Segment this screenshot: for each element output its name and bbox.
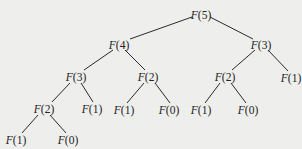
- tree-node-label: F(1): [280, 72, 302, 85]
- tree-edge: [22, 115, 38, 133]
- tree-node-label: F(1): [190, 104, 212, 117]
- tree-edge: [127, 83, 144, 103]
- tree-node-label: F(4): [108, 39, 130, 52]
- tree-nodes: F(5)F(4)F(3)F(3)F(2)F(2)F(1)F(2)F(1)F(1)…: [5, 9, 302, 147]
- tree-edge: [155, 83, 170, 103]
- tree-node-label: F(1): [5, 134, 27, 147]
- tree-node-label: F(1): [81, 103, 103, 116]
- tree-node-label: F(0): [57, 134, 79, 147]
- tree-node-label: F(0): [158, 104, 180, 117]
- tree-node-label: F(2): [33, 103, 55, 116]
- fibonacci-recursion-tree: F(5)F(4)F(3)F(3)F(2)F(2)F(1)F(2)F(1)F(1)…: [0, 0, 302, 149]
- tree-edge: [52, 83, 70, 102]
- tree-edge: [268, 50, 288, 71]
- tree-node-label: F(2): [214, 71, 236, 84]
- tree-node-label: F(0): [237, 104, 259, 117]
- tree-node-label: F(2): [137, 71, 159, 84]
- tree-edge: [205, 83, 220, 103]
- tree-edge: [232, 50, 255, 70]
- tree-node-label: F(3): [65, 71, 87, 84]
- tree-node-label: F(3): [250, 39, 272, 52]
- tree-node-label: F(5): [190, 9, 212, 22]
- tree-node-label: F(1): [113, 104, 135, 117]
- tree-edge: [84, 50, 113, 70]
- tree-edge: [130, 17, 192, 39]
- tree-edge: [125, 50, 145, 70]
- tree-edge: [50, 115, 66, 133]
- tree-edge: [231, 83, 246, 103]
- tree-edge: [81, 83, 93, 102]
- tree-edge: [210, 17, 253, 39]
